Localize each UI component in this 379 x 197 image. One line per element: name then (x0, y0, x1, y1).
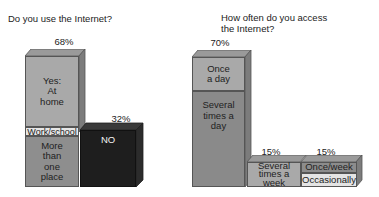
weekly-bar-side-face (356, 155, 363, 188)
left-chart-title: Do you use the Internet? (8, 13, 112, 24)
daily-percent-label: 70% (205, 37, 235, 48)
right-chart-title-line2: the Internet? (221, 23, 327, 34)
right-chart-title: How often do you access the Internet? (221, 12, 327, 34)
occasionally-segment: Occasionally (301, 173, 357, 187)
yes-work-school-segment: Work/school (25, 127, 79, 136)
several-times-a-day-segment: Several times a day (192, 91, 245, 187)
right-chart-title-line1: How often do you access (221, 12, 327, 23)
no-segment: NO (80, 130, 136, 187)
several-times-a-week-segment: Several times a week (247, 162, 301, 187)
once-week-segment: Once/week (301, 162, 357, 173)
yes-bar-side-face (78, 49, 87, 133)
yes-at-home-segment: Yes: At home (25, 56, 79, 127)
yes-more-than-one-place-segment: More than one place (25, 136, 79, 187)
once-a-day-segment: Once a day (192, 57, 245, 91)
no-bar-side-face (135, 122, 144, 188)
yes-percent-label: 68% (44, 36, 84, 47)
